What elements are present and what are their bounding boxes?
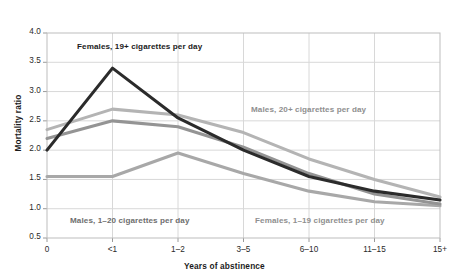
y-tick-label: 1.0 bbox=[11, 203, 41, 212]
series-annotation-label: Females, 1–19 cigarettes per day bbox=[255, 216, 385, 225]
y-tick-label: 4.0 bbox=[11, 27, 41, 36]
series-annotation-label: Males, 20+ cigarettes per day bbox=[251, 105, 366, 114]
y-tick-label: 1.5 bbox=[11, 173, 41, 182]
x-tick-label: 0 bbox=[22, 245, 72, 254]
axis-ticks bbox=[43, 33, 440, 242]
mortality-ratio-chart: 0.51.01.52.02.53.03.54.0 0<11–23–56–1011… bbox=[0, 0, 449, 278]
x-axis-title: Years of abstinence bbox=[0, 261, 449, 271]
y-tick-label: 3.5 bbox=[11, 56, 41, 65]
x-tick-label: 15+ bbox=[415, 245, 449, 254]
y-axis-title: Mortality ratio bbox=[13, 83, 23, 163]
chart-plot-area bbox=[0, 0, 449, 278]
x-tick-label: 1–2 bbox=[153, 245, 203, 254]
y-tick-label: 0.5 bbox=[11, 232, 41, 241]
grid-lines bbox=[47, 33, 440, 238]
x-tick-label: <1 bbox=[88, 245, 138, 254]
x-tick-label: 3–5 bbox=[219, 245, 269, 254]
x-tick-label: 11–15 bbox=[350, 245, 400, 254]
series-annotation-label: Females, 19+ cigarettes per day bbox=[77, 42, 202, 51]
x-tick-label: 6–10 bbox=[284, 245, 334, 254]
series-annotation-label: Males, 1–20 cigarettes per day bbox=[70, 216, 190, 225]
